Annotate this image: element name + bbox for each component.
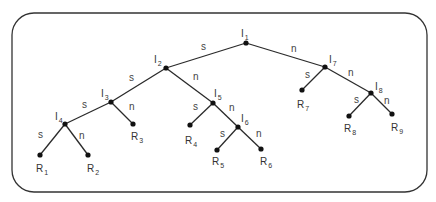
- leaf-node-r5: [214, 147, 219, 152]
- node-label-i6: I6: [241, 113, 249, 126]
- internal-node-i3: [108, 99, 113, 104]
- node-labels: I1I2I3I4I5I6I7I8R1R2R3R4R5R6R7R8R9: [36, 28, 403, 176]
- edge-i8-r8: [349, 93, 371, 116]
- edge-label: s: [82, 99, 87, 110]
- node-label-i1: I1: [241, 28, 249, 41]
- edge-i3-i4: [65, 102, 111, 124]
- leaf-node-r7: [299, 87, 304, 92]
- edge-label: s: [193, 101, 198, 112]
- internal-node-i8: [368, 90, 373, 95]
- node-label-r4: R4: [185, 135, 197, 148]
- edge-label: n: [129, 101, 135, 112]
- edge-label: n: [348, 67, 354, 78]
- node-label-i2: I2: [154, 54, 162, 67]
- internal-node-i5: [210, 100, 215, 105]
- edge-i1-i2: [166, 43, 246, 68]
- node-label-i7: I7: [329, 54, 337, 67]
- edge-label: n: [193, 71, 199, 82]
- node-label-r2: R2: [87, 163, 99, 176]
- tree-nodes: [37, 40, 394, 157]
- internal-node-i1: [243, 40, 248, 45]
- edge-label: s: [354, 94, 359, 105]
- leaf-node-r6: [258, 146, 263, 151]
- node-label-r8: R8: [344, 123, 356, 136]
- edge-label: n: [79, 130, 85, 141]
- internal-node-i4: [62, 121, 67, 126]
- edge-label: n: [384, 95, 390, 106]
- node-label-r5: R5: [212, 156, 224, 169]
- edge-label: n: [256, 128, 262, 139]
- node-label-r6: R6: [260, 156, 272, 169]
- leaf-node-r2: [85, 152, 90, 157]
- leaf-node-r8: [346, 113, 351, 118]
- edge-label: s: [129, 72, 134, 83]
- node-label-i3: I3: [101, 88, 109, 101]
- internal-node-i7: [322, 64, 327, 69]
- edge-i2-i5: [166, 68, 213, 103]
- edge-label: s: [220, 128, 225, 139]
- node-label-i8: I8: [375, 81, 383, 94]
- leaf-node-r9: [389, 111, 394, 116]
- node-label-r9: R9: [391, 122, 403, 135]
- leaf-node-r4: [187, 122, 192, 127]
- edge-label: n: [291, 43, 297, 54]
- node-label-i5: I5: [214, 88, 222, 101]
- node-label-r7: R7: [297, 99, 309, 112]
- edge-i1-i7: [246, 43, 325, 67]
- node-label-i4: I4: [55, 111, 63, 124]
- edge-i4-r1: [40, 124, 65, 155]
- internal-node-i2: [163, 65, 168, 70]
- edge-label: s: [201, 41, 206, 52]
- internal-node-i6: [235, 124, 240, 129]
- edge-i2-i3: [111, 68, 166, 102]
- edge-label: n: [229, 102, 235, 113]
- edge-label: s: [305, 69, 310, 80]
- decision-tree-diagram: snsnsnsnsnsnsnsn I1I2I3I4I5I6I7I8R1R2R3R…: [0, 0, 436, 202]
- node-label-r1: R1: [36, 163, 48, 176]
- edge-label: s: [38, 129, 43, 140]
- leaf-node-r3: [130, 121, 135, 126]
- tree-edges: [40, 43, 392, 155]
- node-label-r3: R3: [131, 131, 143, 144]
- leaf-node-r1: [37, 152, 42, 157]
